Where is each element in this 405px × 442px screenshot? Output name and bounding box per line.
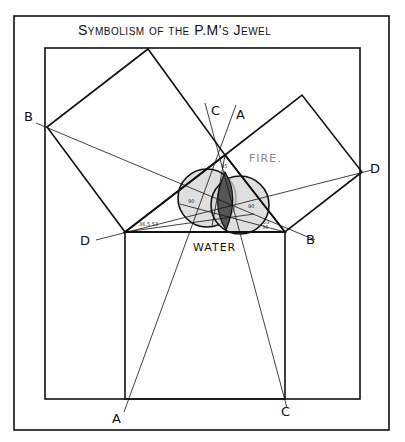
- label-d-left: D: [80, 234, 90, 247]
- label-fire: FIRE.: [249, 153, 282, 164]
- label-water: WATER: [193, 242, 236, 253]
- construction-lines: [36, 103, 372, 412]
- label-d-right: D: [370, 162, 380, 175]
- label-a-top: A: [236, 108, 245, 121]
- svg-text:45: 45: [221, 163, 227, 169]
- svg-text:36: 36: [262, 224, 268, 230]
- label-b-right: B: [306, 233, 315, 246]
- bottom-square: [125, 232, 285, 399]
- svg-text:90: 90: [188, 198, 194, 204]
- diagram-canvas: 45 36.5 53 53 36 90 90 Symbolism of the …: [0, 0, 405, 442]
- label-c-top: C: [211, 104, 220, 117]
- label-a-bottom: A: [112, 412, 121, 425]
- label-c-bottom: C: [281, 405, 290, 418]
- label-b-left: B: [24, 110, 33, 123]
- geometry-drawing: 45 36.5 53 53 36 90 90: [0, 0, 405, 442]
- svg-text:36.5 53: 36.5 53: [139, 221, 158, 227]
- diagram-title: Symbolism of the P.M's Jewel: [78, 22, 271, 38]
- svg-text:90: 90: [248, 203, 254, 209]
